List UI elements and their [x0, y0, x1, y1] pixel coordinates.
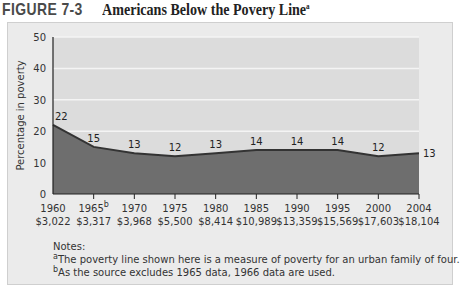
x-tick-year: 1960 — [40, 203, 65, 214]
note-a: aThe poverty line shown here is a measur… — [53, 253, 460, 266]
data-label: 22 — [55, 111, 68, 122]
x-tick-poverty-line: $15,569 — [317, 216, 358, 227]
note-b-text: As the source excludes 1965 data, 1966 d… — [58, 267, 335, 278]
data-label: 15 — [87, 133, 100, 144]
x-tick-year: 1995 — [325, 203, 350, 214]
x-tick-year: 1980 — [203, 203, 228, 214]
y-tick-label: 30 — [33, 95, 46, 106]
y-tick-label: 50 — [33, 32, 46, 43]
data-label: 14 — [291, 136, 304, 147]
notes-heading: Notes: — [53, 240, 460, 253]
x-tick-poverty-line: $18,104 — [398, 216, 439, 227]
y-axis-label: Percentage in poverty — [15, 60, 26, 170]
data-label: 14 — [331, 136, 344, 147]
y-tick-label: 40 — [33, 63, 46, 74]
x-tick-poverty-line: $3,022 — [36, 216, 71, 227]
y-tick-label: 0 — [40, 189, 46, 200]
data-label: 12 — [169, 142, 182, 153]
x-tick-year: 1985 — [244, 203, 269, 214]
y-tick-label: 10 — [33, 158, 46, 169]
note-a-text: The poverty line shown here is a measure… — [58, 254, 460, 265]
x-tick-year: 1975 — [162, 203, 187, 214]
x-tick-poverty-line: $10,989 — [236, 216, 277, 227]
data-label: 13 — [423, 148, 436, 159]
data-label: 13 — [128, 139, 141, 150]
note-b: bAs the source excludes 1965 data, 1966 … — [53, 266, 460, 279]
x-tick-poverty-line: $8,414 — [198, 216, 233, 227]
x-tick-year: 1990 — [284, 203, 309, 214]
x-tick-poverty-line: $3,317 — [76, 216, 111, 227]
data-label: 13 — [209, 139, 222, 150]
x-tick-year: 2004 — [406, 203, 431, 214]
x-tick-year: 1965b — [78, 200, 109, 214]
data-label: 12 — [372, 142, 385, 153]
x-tick-year: 2000 — [366, 203, 391, 214]
x-tick-poverty-line: $5,500 — [158, 216, 193, 227]
x-tick-year: 1970 — [122, 203, 147, 214]
y-tick-label: 20 — [33, 126, 46, 137]
x-tick-poverty-line: $3,968 — [117, 216, 152, 227]
x-tick-poverty-line: $17,603 — [358, 216, 399, 227]
data-label: 14 — [250, 136, 263, 147]
x-tick-poverty-line: $13,359 — [276, 216, 317, 227]
notes-block: Notes: aThe poverty line shown here is a… — [53, 240, 460, 279]
